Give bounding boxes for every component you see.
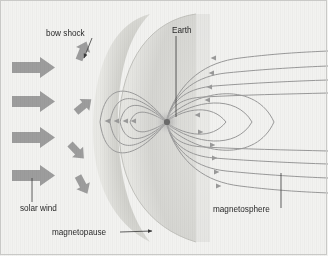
label-magnetopause: magnetopause (52, 228, 107, 237)
label-earth: Earth (172, 26, 192, 35)
label-bow-shock: bow shock (46, 29, 86, 38)
diagram-canvas: bow shock Earth solar wind magnetopause … (0, 0, 328, 256)
label-solar-wind: solar wind (20, 204, 57, 213)
magnetosphere-diagram: bow shock Earth solar wind magnetopause … (0, 0, 328, 256)
label-magnetosphere: magnetosphere (213, 205, 270, 214)
